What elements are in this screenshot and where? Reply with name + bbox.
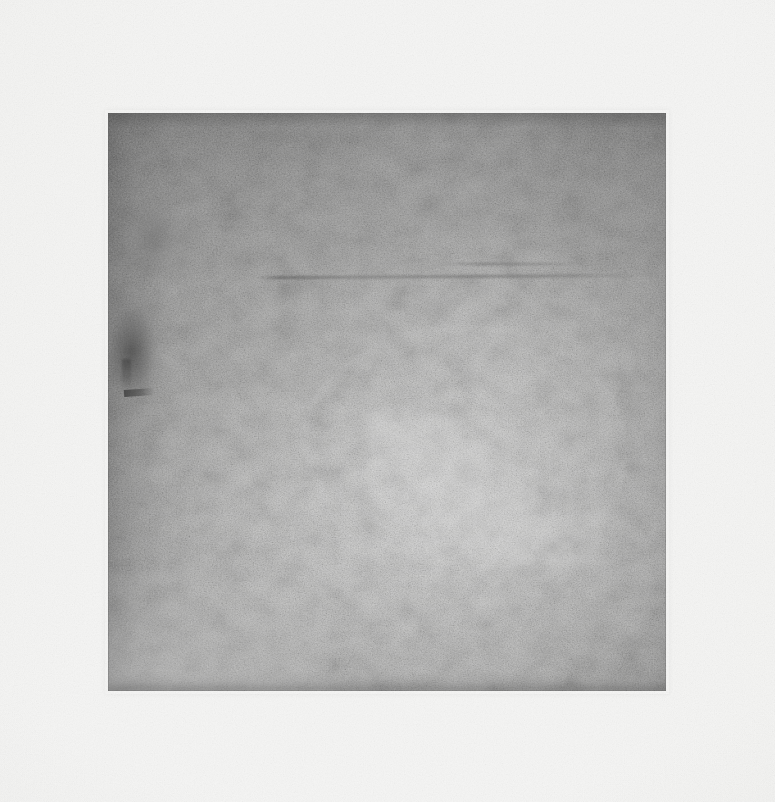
plate-highlight-pool — [108, 113, 666, 691]
plate-mark-corner-sweep — [108, 571, 328, 691]
plate-edge-shade-top — [108, 113, 666, 127]
plate-edge-shade-bottom — [108, 673, 666, 691]
plate-grain-coarse — [108, 113, 666, 691]
plate-grain-highlights — [108, 113, 666, 691]
plate-tone-horizontal — [108, 113, 666, 691]
print-plate — [108, 113, 666, 691]
plate-mark-tick — [124, 388, 154, 397]
plate-mark-scratch — [256, 274, 658, 279]
plate-mark-burnished-arc — [304, 327, 626, 567]
plate-mark-smudge-left — [110, 291, 168, 423]
plate-mark-scratch-short — [438, 263, 588, 265]
plate-mark-wipe — [366, 413, 602, 563]
plate-tone-vertical — [108, 113, 666, 691]
plate-vignette — [108, 113, 666, 691]
plate-grain-fine — [108, 113, 666, 691]
plate-surface — [108, 113, 666, 691]
plate-mark-tick-vertical — [122, 359, 131, 389]
page-canvas — [0, 0, 775, 802]
plate-mark-smudge-upper — [116, 195, 200, 281]
plate-border — [108, 113, 666, 691]
